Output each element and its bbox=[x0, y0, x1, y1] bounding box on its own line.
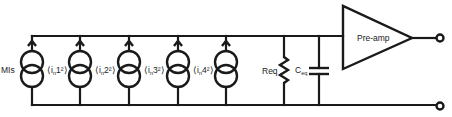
source-label-in1: ⟨in1²⟩ bbox=[47, 65, 68, 76]
output-terminal-bottom bbox=[437, 103, 444, 110]
capacitor-ceq: Ceq bbox=[295, 36, 329, 105]
resistor-req: Req bbox=[262, 36, 288, 105]
pre-amp-label: Pre-amp bbox=[357, 33, 390, 43]
source-label-mis: MIs bbox=[1, 65, 15, 75]
source-label-in3: ⟨in3²⟩ bbox=[144, 65, 165, 76]
current-source-2: ⟨in1²⟩ bbox=[47, 36, 91, 105]
resistor-zigzag-icon bbox=[280, 57, 288, 83]
current-source-4: ⟨in3²⟩ bbox=[144, 36, 189, 105]
current-source-3: ⟨in2²⟩ bbox=[95, 36, 140, 105]
resistor-label: Req bbox=[262, 66, 278, 76]
source-label-in2: ⟨in2²⟩ bbox=[95, 65, 116, 76]
output-terminal-top bbox=[437, 35, 444, 42]
current-source-1: MIs bbox=[1, 36, 43, 105]
pre-amp: Pre-amp bbox=[343, 6, 436, 69]
current-source-5: ⟨in4²⟩ bbox=[193, 36, 237, 105]
source-label-in4: ⟨in4²⟩ bbox=[193, 65, 214, 76]
capacitor-label: Ceq bbox=[295, 65, 307, 76]
circuit-diagram: MIs ⟨in1²⟩ ⟨in2²⟩ ⟨in3²⟩ bbox=[0, 0, 452, 117]
